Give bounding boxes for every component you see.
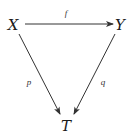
edge-label-p: p [27, 78, 32, 87]
arrow-q-y-to-t [74, 34, 115, 114]
node-y: Y [115, 18, 125, 33]
edge-label-f: f [65, 9, 68, 18]
node-x: X [8, 18, 19, 33]
arrow-p-x-to-t [19, 34, 60, 114]
commutative-diagram: X Y T f p q [0, 0, 132, 140]
edge-label-q: q [101, 78, 106, 87]
node-t: T [61, 119, 71, 134]
